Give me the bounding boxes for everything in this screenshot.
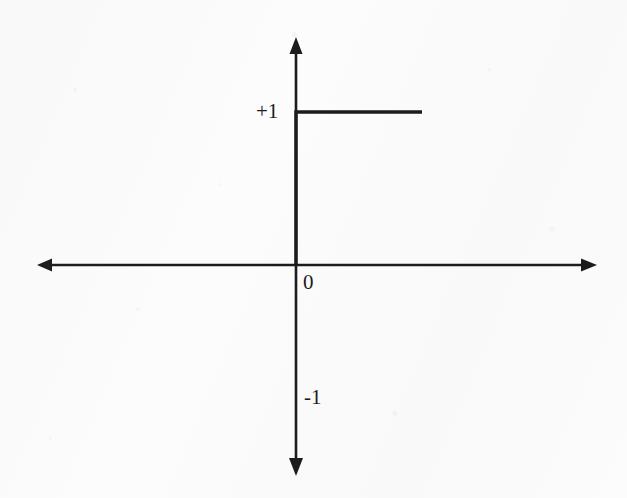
y-tick-label-plus-one: +1 bbox=[256, 101, 278, 122]
origin-label-zero: 0 bbox=[303, 272, 314, 293]
x-axis bbox=[37, 259, 597, 272]
step-function-curve bbox=[296, 112, 422, 265]
x-axis-left-arrowhead-icon bbox=[37, 259, 52, 272]
figure-root: +1 0 -1 bbox=[0, 0, 627, 498]
y-tick-label-minus-one: -1 bbox=[304, 387, 322, 408]
x-axis-right-arrowhead-icon bbox=[581, 259, 597, 272]
plot-canvas bbox=[0, 0, 627, 498]
y-axis-down-arrowhead-icon bbox=[289, 458, 303, 476]
step-function-path bbox=[296, 112, 422, 265]
y-axis-up-arrowhead-icon bbox=[290, 37, 303, 54]
